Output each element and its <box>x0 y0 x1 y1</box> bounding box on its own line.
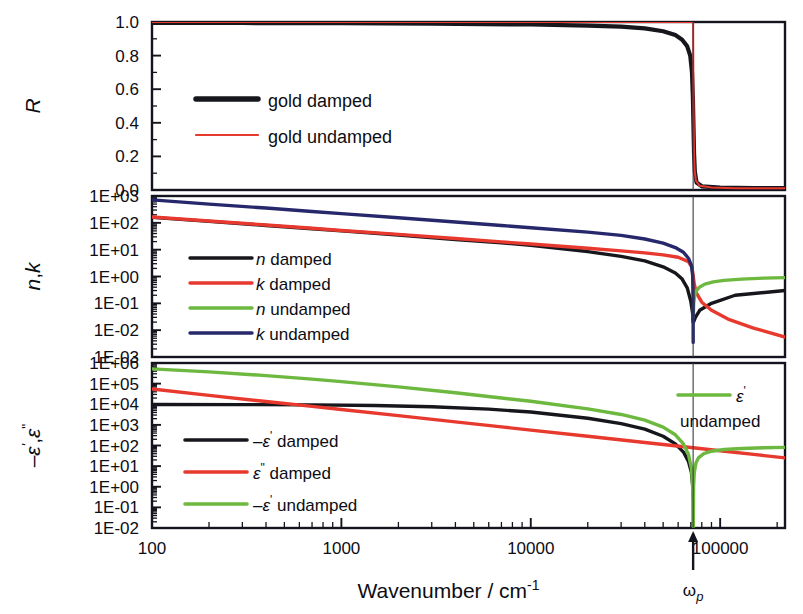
legend-top: gold dampedgold undamped <box>196 91 392 147</box>
x-tick-label: 1000 <box>322 539 360 558</box>
legend-label: gold damped <box>268 91 372 111</box>
y-tick-label: 1E+03 <box>89 187 139 206</box>
curve-k-damped <box>152 217 785 337</box>
legend-label: n damped <box>256 250 332 269</box>
curve--undamped <box>693 447 785 526</box>
x-tick-label: 10000 <box>507 539 554 558</box>
panel-frame-top <box>152 22 785 190</box>
curve-gold-undamped <box>152 22 785 188</box>
y-tick-label: 1E+06 <box>89 354 139 373</box>
plasma-frequency-label: ωp <box>683 581 704 604</box>
y-tick-label: 1E+00 <box>89 268 139 287</box>
curve-n-undamped <box>693 278 785 318</box>
legend-bottom: –ε' dampedε" damped–ε' undamped <box>185 429 357 515</box>
y-axis-top: 0.00.20.40.60.81.0 <box>115 13 161 200</box>
y-tick-label: 0.2 <box>115 147 139 166</box>
y-axis-bottom: 1E-021E-011E+001E+011E+021E+031E+041E+05… <box>89 354 161 538</box>
svg-text:–ε',ε": –ε',ε" <box>19 424 44 468</box>
svg-text:n,k: n,k <box>21 261 44 291</box>
y-tick-label: 1E+01 <box>89 457 139 476</box>
legend-bottom-inset: ε'undamped <box>678 384 760 431</box>
y-tick-label: 1.0 <box>115 13 139 32</box>
y-tick-label: 1E+01 <box>89 241 139 260</box>
legend-label: n undamped <box>256 300 351 319</box>
y-axis-title-bottom: –ε',ε" <box>19 424 44 468</box>
legend-label-line2: undamped <box>680 412 760 431</box>
y-tick-label: 1E+03 <box>89 416 139 435</box>
x-tick-label: 100000 <box>692 539 749 558</box>
y-tick-label: 1E-02 <box>94 519 139 538</box>
y-tick-label: 0.4 <box>115 114 139 133</box>
curve-gold-damped <box>152 23 785 188</box>
legend-label: ε' <box>736 384 746 406</box>
curves-top <box>152 22 785 188</box>
y-tick-label: 1E-02 <box>94 321 139 340</box>
svg-text:R: R <box>21 98 44 113</box>
y-axis-middle: 1E-031E-021E-011E+001E+011E+021E+03 <box>89 187 161 367</box>
legend-label: –ε' damped <box>253 429 338 451</box>
legend-label: ε" damped <box>253 461 331 483</box>
y-tick-label: 1E+02 <box>89 214 139 233</box>
y-tick-label: 1E+02 <box>89 437 139 456</box>
y-axis-title-top: R <box>21 98 44 113</box>
y-tick-label: 1E-01 <box>94 498 139 517</box>
y-tick-label: 0.8 <box>115 47 139 66</box>
y-tick-label: 1E-01 <box>94 294 139 313</box>
curves-middle <box>152 200 785 343</box>
x-tick-label: 100 <box>138 539 166 558</box>
y-tick-label: 1E+05 <box>89 375 139 394</box>
y-tick-label: 1E+00 <box>89 478 139 497</box>
legend-label: k undamped <box>256 325 350 344</box>
y-tick-label: 1E+04 <box>89 395 139 414</box>
y-axis-title-middle: n,k <box>21 261 44 291</box>
legend-label: –ε' undamped <box>253 493 357 515</box>
legend-middle: n dampedk dampedn undampedk undamped <box>190 250 351 344</box>
figure-container: 0.00.20.40.60.81.01E-031E-021E-011E+001E… <box>0 0 803 614</box>
multi-panel-optical-constants-figure: 0.00.20.40.60.81.01E-031E-021E-011E+001E… <box>0 0 803 614</box>
x-axis-title: Wavenumber / cm-1 <box>357 577 539 602</box>
x-axis: 100100010000100000 <box>138 518 777 558</box>
legend-label: k damped <box>256 275 331 294</box>
y-tick-label: 0.6 <box>115 80 139 99</box>
legend-label: gold undamped <box>268 127 392 147</box>
